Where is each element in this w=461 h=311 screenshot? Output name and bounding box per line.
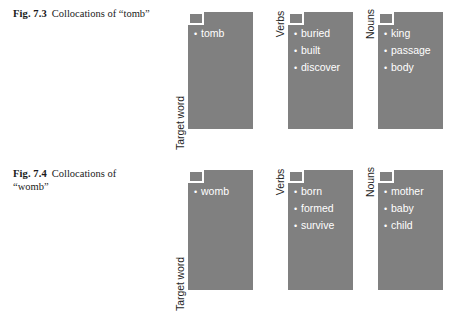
figure-7-3: Fig. 7.3Collocations of “tomb” Target wo… [0,0,461,152]
figure-caption: Fig. 7.4Collocations of “womb” [13,167,153,193]
list-item: • baby [384,200,424,217]
corner-notch-icon [288,170,304,183]
list-item-label: womb [201,183,229,199]
figure-title: Collocations of “tomb” [52,8,150,19]
group-axis-label: Target word [172,170,188,290]
group-axis-label-text: Verbs [274,169,286,195]
bullet-icon: • [194,26,201,42]
list-item-label: built [301,42,320,58]
bullet-icon: • [384,218,391,234]
list-item-label: child [391,217,413,233]
bullet-icon: • [384,184,391,200]
list-item-label: tomb [201,25,224,41]
group-axis-label-text: Target word [174,96,186,150]
list-item-label: baby [391,200,414,216]
bullet-icon: • [294,201,301,217]
corner-notch-icon [188,170,204,183]
figure-number: Fig. 7.3 [13,8,47,19]
list-item: • born [294,183,334,200]
collocation-panel: • born • formed • survive [288,170,353,290]
corner-notch-icon [288,12,304,25]
collocation-panel: • tomb [188,12,253,129]
list-item-label: body [391,59,414,75]
list-item: • buried [294,25,340,42]
group-axis-label-text: Nouns [364,9,376,39]
bullet-icon: • [384,43,391,59]
figure-caption: Fig. 7.3Collocations of “tomb” [13,7,153,20]
bullet-icon: • [384,60,391,76]
group-axis-label-text: Target word [174,257,186,311]
collocation-list: • born • formed • survive [294,183,334,234]
list-item: • child [384,217,424,234]
bullet-icon: • [384,201,391,217]
list-item-label: survive [301,217,334,233]
collocation-list: • mother • baby • child [384,183,424,234]
list-item: • discover [294,59,340,76]
group-axis-label-text: Nouns [364,167,376,197]
list-item: • formed [294,200,334,217]
figure-number: Fig. 7.4 [13,168,47,179]
bullet-icon: • [384,26,391,42]
list-item: • survive [294,217,334,234]
figure-7-4: Fig. 7.4Collocations of “womb” Target wo… [0,160,461,305]
bullet-icon: • [294,43,301,59]
list-item-label: buried [301,25,330,41]
group-axis-label: Nouns [362,12,378,129]
collocation-panel: • king • passage • body [378,12,443,129]
list-item: • built [294,42,340,59]
list-item: • passage [384,42,431,59]
bullet-icon: • [194,184,201,200]
group-axis-label: Target word [172,12,188,129]
collocation-panel: • womb [188,170,253,290]
list-item: • womb [194,183,229,200]
list-item: • tomb [194,25,224,42]
bullet-icon: • [294,218,301,234]
list-item: • king [384,25,431,42]
list-item-label: formed [301,200,334,216]
group-axis-label: Nouns [362,170,378,290]
group-axis-label: Verbs [272,12,288,129]
list-item-label: passage [391,42,431,58]
list-item-label: born [301,183,322,199]
collocation-panel: • buried • built • discover [288,12,353,129]
list-item-label: king [391,25,410,41]
group-axis-label-text: Verbs [274,11,286,37]
bullet-icon: • [294,60,301,76]
corner-notch-icon [188,12,204,25]
list-item: • mother [384,183,424,200]
collocation-list: • womb [194,183,229,200]
collocation-panel: • mother • baby • child [378,170,443,290]
list-item: • body [384,59,431,76]
list-item-label: discover [301,59,340,75]
bullet-icon: • [294,184,301,200]
group-axis-label: Verbs [272,170,288,290]
collocation-list: • king • passage • body [384,25,431,76]
corner-notch-icon [378,170,394,183]
list-item-label: mother [391,183,424,199]
collocation-list: • buried • built • discover [294,25,340,76]
corner-notch-icon [378,12,394,25]
bullet-icon: • [294,26,301,42]
collocation-list: • tomb [194,25,224,42]
